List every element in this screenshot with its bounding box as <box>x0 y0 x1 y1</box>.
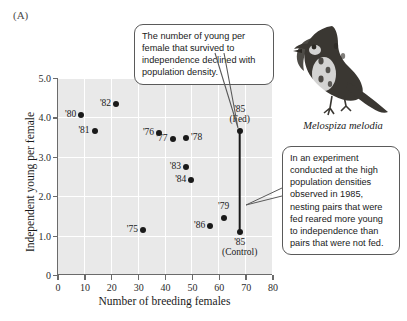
data-point-label: '77 <box>156 134 167 144</box>
figure-panel-a: (A) '80'82'81'76'77'78'83'84'75'86'79'85… <box>0 0 407 321</box>
x-axis-tick <box>57 275 58 280</box>
x-axis-tick <box>219 275 220 280</box>
data-point <box>92 128 98 134</box>
data-point-label: '85(Fed) <box>229 105 250 125</box>
x-axis-tick-label: 60 <box>214 282 224 293</box>
data-point <box>183 164 189 170</box>
x-axis-tick-label: 30 <box>134 282 144 293</box>
panel-label: (A) <box>13 9 28 21</box>
data-point-label: '80 <box>65 110 76 120</box>
x-axis-tick <box>165 275 166 280</box>
y-axis-tick-label: 4.0 <box>39 112 52 123</box>
species-caption: Melospiza melodia <box>282 120 404 131</box>
y-axis-tick <box>53 275 58 276</box>
x-axis-tick <box>84 275 85 280</box>
y-axis-tick-label: 2.0 <box>39 191 52 202</box>
data-point-label: '81 <box>78 126 89 136</box>
data-point <box>140 227 146 233</box>
gridline-vertical <box>138 78 139 275</box>
data-point-label: '75 <box>127 225 138 235</box>
data-point <box>237 229 243 235</box>
callout-experiment-note: In an experiment conducted at the high p… <box>282 146 400 255</box>
x-axis-title: Number of breeding females <box>57 295 272 307</box>
gridline-vertical <box>84 78 85 275</box>
y-axis-tick-label: 1.0 <box>39 230 52 241</box>
x-axis-tick <box>111 275 112 280</box>
callout-density-note: The number of young per female that surv… <box>134 24 274 85</box>
gridline-vertical <box>218 78 219 275</box>
plot-area: '80'82'81'76'77'78'83'84'75'86'79'85(Fed… <box>57 78 272 275</box>
x-axis-tick <box>245 275 246 280</box>
x-axis-tick-label: 70 <box>241 282 251 293</box>
data-point-label: '86 <box>194 221 205 231</box>
y-axis-title: Independent young per female <box>24 82 36 282</box>
data-point-label: '84 <box>175 175 186 185</box>
x-axis-tick <box>272 275 273 280</box>
x-axis-tick-label: 20 <box>107 282 117 293</box>
y-axis-tick-label: 5.0 <box>39 73 52 84</box>
data-point <box>221 215 227 221</box>
data-point-label: '78 <box>191 133 202 143</box>
data-point <box>188 177 194 183</box>
data-point-label: '82 <box>100 99 111 109</box>
x-axis-tick <box>138 275 139 280</box>
fed-control-connector <box>238 131 241 231</box>
data-point-label: '76 <box>143 128 154 138</box>
song-sparrow-illustration <box>288 16 400 120</box>
x-axis-tick-label: 50 <box>187 282 197 293</box>
data-point-label: '85(Control) <box>222 238 257 258</box>
x-axis-tick <box>192 275 193 280</box>
gridline-vertical <box>272 78 273 275</box>
x-axis-tick-label: 0 <box>56 282 61 293</box>
y-axis-tick-label: 3.0 <box>39 151 52 162</box>
x-axis-tick-label: 10 <box>80 282 90 293</box>
data-point <box>170 136 176 142</box>
data-point <box>113 101 119 107</box>
x-axis-tick-label: 80 <box>268 282 278 293</box>
data-point <box>237 128 243 134</box>
data-point <box>183 135 189 141</box>
data-point-label: '79 <box>218 202 229 212</box>
gridline-vertical <box>165 78 166 275</box>
y-axis-tick-label: 0 <box>46 270 51 281</box>
data-point-label: '83 <box>170 162 181 172</box>
x-axis-tick-label: 40 <box>161 282 171 293</box>
data-point <box>78 112 84 118</box>
data-point <box>207 223 213 229</box>
